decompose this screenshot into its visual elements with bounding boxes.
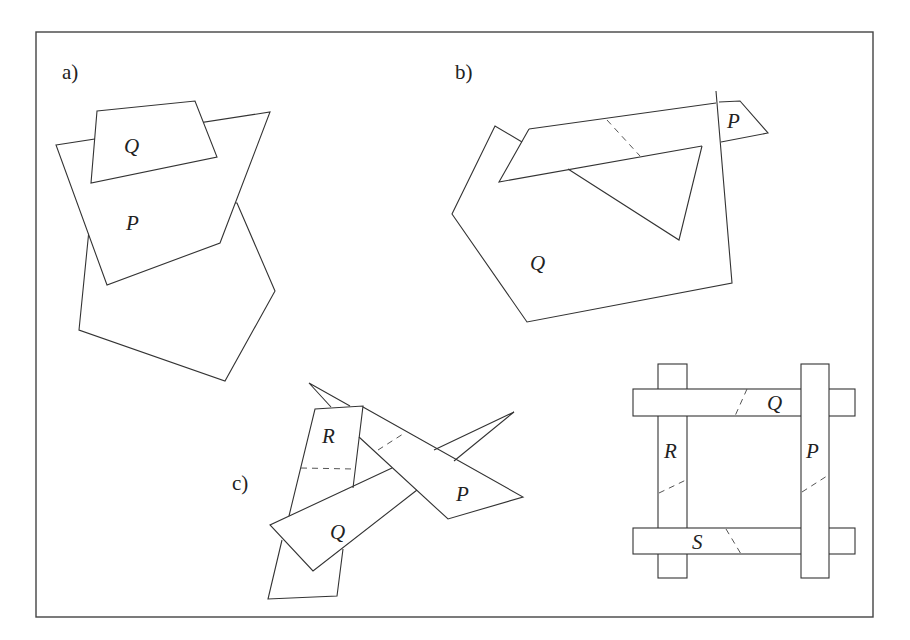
- panel-d-label-p: P: [805, 439, 819, 463]
- panel-c-shape-r-upper: [289, 406, 363, 516]
- panel-a-label: a): [62, 60, 78, 84]
- panel-b-hidden-edge: [607, 120, 640, 156]
- panel-b-label-p: P: [726, 109, 740, 133]
- panel-b-shape-p-bottom: [499, 129, 702, 182]
- panel-b-shape-q-notch: [568, 146, 702, 240]
- panel-c-label: c): [232, 471, 248, 495]
- panel-b-label-q: Q: [530, 251, 545, 275]
- panel-b: b) P Q: [452, 60, 768, 322]
- panel-d-shape-p: [801, 364, 829, 578]
- panel-c: c) R Q P: [232, 383, 523, 599]
- panel-b-shape-p-top: [529, 103, 716, 129]
- panel-c-shape-r-lower: [268, 540, 343, 599]
- panel-d-label-s: S: [692, 530, 703, 554]
- panel-d-label-q: Q: [767, 391, 782, 415]
- panel-c-label-p: P: [455, 482, 469, 506]
- panel-b-label: b): [455, 60, 473, 84]
- panel-c-hidden-edge-p: [378, 434, 403, 450]
- panel-b-shape-q-left: [452, 91, 732, 322]
- panel-c-shape-p-upper: [359, 407, 523, 519]
- panel-a-label-p: P: [125, 211, 139, 235]
- panel-c-label-r: R: [321, 424, 335, 448]
- panel-d-label-r: R: [663, 439, 677, 463]
- panel-d: Q R P S: [633, 364, 855, 578]
- panel-c-label-q: Q: [330, 520, 345, 544]
- panel-a: a) Q P: [56, 60, 275, 381]
- figure-canvas: a) Q P b) P Q c): [0, 0, 910, 640]
- panel-a-label-q: Q: [124, 134, 139, 158]
- panel-c-shape-p-tip: [309, 383, 350, 407]
- panel-c-hidden-edge-r: [301, 468, 354, 469]
